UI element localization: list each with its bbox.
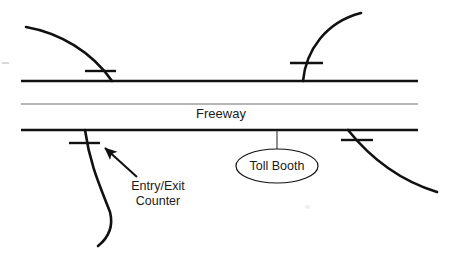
- freeway-label: Freeway: [196, 106, 246, 121]
- toll-booth-label: Toll Booth: [250, 159, 305, 173]
- scan-speck-left: [2, 62, 9, 64]
- counter-callout-label-line1: Entry/Exit: [131, 179, 185, 193]
- freeway-diagram: Freeway Toll Booth Entry/Exit Counter: [0, 0, 460, 268]
- counter-callout-label-line2: Counter: [136, 194, 180, 208]
- canvas-background: [0, 0, 460, 268]
- scan-speck-mid: [305, 205, 310, 209]
